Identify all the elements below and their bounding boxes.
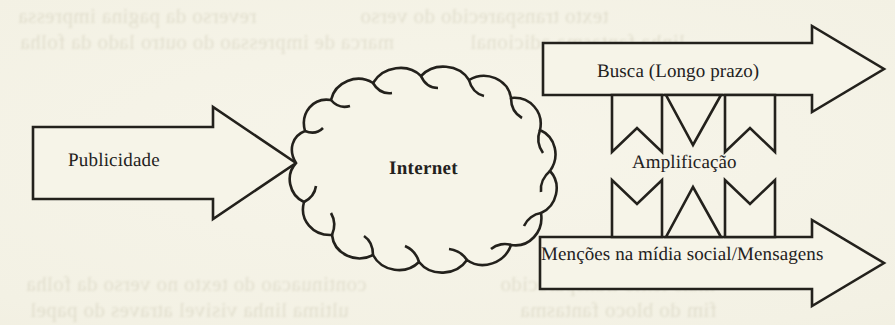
amplificacao-arrow-lower-center — [666, 187, 721, 237]
internet-label: Internet — [389, 158, 458, 180]
scanned-figure-page: reverso da pagina impressatexto transpar… — [0, 0, 895, 325]
amplificacao-arrow-lower-left — [612, 180, 662, 237]
amplificacao-label: Amplificação — [632, 152, 737, 174]
publicidade-label: Publicidade — [68, 150, 160, 172]
amplificacao-arrow-lower-right — [725, 180, 775, 237]
amplificacao-arrow-upper-center — [666, 95, 721, 145]
amplificacao-arrow-upper-right — [725, 95, 775, 152]
busca-label: Busca (Longo prazo) — [597, 61, 759, 83]
amplificacao-arrow-upper-left — [612, 95, 662, 152]
mencoes-label: Menções na mídia social/Mensagens — [541, 244, 823, 266]
